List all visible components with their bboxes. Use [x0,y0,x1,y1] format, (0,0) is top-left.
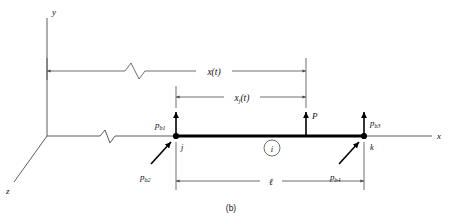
nodal-force-pb1: pb1 [154,112,176,136]
dimension-x-of-t: x(t) [47,58,306,108]
length-label: ℓ [269,177,273,187]
x-axis-label: x [436,131,441,141]
y-axis-label: y [51,7,56,17]
beam-element-diagram: y z x j k i P [0,0,463,220]
z-axis-line [14,136,47,182]
nodal-force-pb1-label: pb1 [154,120,166,131]
element-number: i [264,140,280,156]
nodal-force-pb2-arrow [151,142,171,164]
nodal-force-pb2-label: pb2 [139,172,151,183]
node-j-label: j [180,142,184,152]
beam-element: j k [173,133,374,152]
z-axis-label: z [5,186,10,196]
figure-caption: (b) [226,203,237,213]
nodal-force-pb4: pb4 [329,142,359,183]
applied-load-label: P [311,111,318,121]
figure-container: y z x j k i P [0,0,463,220]
node-k-label: k [370,142,374,152]
coordinate-axes: y z x [5,7,441,196]
element-number-label: i [271,144,274,154]
x-of-t-break-symbol [125,63,145,79]
nodal-force-pb3-label: pb3 [369,118,381,129]
nodal-force-pb3: pb3 [364,112,381,136]
nodal-force-pb2: pb2 [139,142,171,183]
applied-load-P: P [306,111,318,136]
x-of-t-label: x(t) [206,67,220,78]
x-axis-line-left [47,130,176,143]
dimension-xj-of-t: xj(t) [176,86,306,108]
nodal-force-pb4-label: pb4 [329,172,341,183]
xj-of-t-label: xj(t) [234,93,250,104]
nodal-force-pb4-arrow [339,142,359,164]
